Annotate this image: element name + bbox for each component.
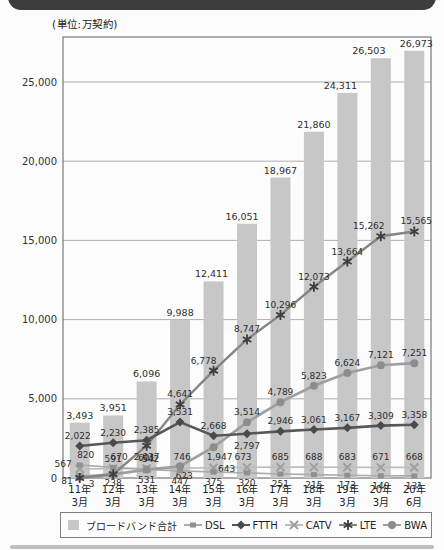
legend-item-catv: CATV <box>285 519 332 531</box>
value-label: 5,823 <box>301 371 327 381</box>
value-label: 3,167 <box>334 413 360 423</box>
value-label: 3,951 <box>100 402 127 413</box>
value-label: 3月 <box>272 497 288 508</box>
value-label: 3月 <box>205 497 221 508</box>
square-marker-icon <box>378 473 384 478</box>
gridlines: 05,00010,00015,00020,00025,000 <box>22 77 431 484</box>
legend-item-bwa: BWA <box>383 519 427 531</box>
legend-label: DSL <box>205 520 225 531</box>
value-label: 26,503 <box>352 45 385 56</box>
circle-marker-icon <box>410 359 418 367</box>
value-label: 15,000 <box>22 235 57 246</box>
value-label: 3月 <box>306 497 322 508</box>
value-label: 4,789 <box>268 387 294 397</box>
value-label: 12,073 <box>298 272 330 282</box>
square-marker-icon <box>344 473 350 478</box>
value-label: 15,262 <box>353 221 385 231</box>
value-label: 3,358 <box>401 410 427 420</box>
value-label: 3月 <box>105 497 121 508</box>
marker-icon <box>339 519 357 531</box>
value-label: 10,296 <box>265 300 297 310</box>
square-marker-icon <box>190 523 196 528</box>
legend-item-ftth: FTTH <box>232 519 278 531</box>
value-label: 3,531 <box>167 407 193 417</box>
marker-icon <box>184 519 202 531</box>
value-label: 10,000 <box>22 314 57 325</box>
value-label: 2,797 <box>234 441 260 451</box>
value-label: 2,022 <box>65 431 91 441</box>
bar-icon <box>65 519 83 531</box>
circle-marker-icon <box>388 521 396 529</box>
legend-item-lte: LTE <box>339 519 377 531</box>
bottom-divider <box>10 545 434 549</box>
value-label: 12,411 <box>195 268 228 279</box>
value-label: 20年 <box>369 483 392 495</box>
legend-label: BWA <box>404 520 427 531</box>
value-label: 15年 <box>202 483 225 495</box>
value-label: 8,747 <box>234 324 260 334</box>
value-label: 3月 <box>172 497 188 508</box>
value-label: 683 <box>339 452 356 462</box>
value-label: 7,251 <box>401 348 427 358</box>
value-label: 20,000 <box>22 156 57 167</box>
legend-label: ブロードバンド合計 <box>86 518 177 533</box>
value-label: 9,988 <box>166 307 193 318</box>
value-label: 6,096 <box>133 368 160 379</box>
broadband-chart: 05,00010,00015,00020,00025,0005675916016… <box>0 0 444 550</box>
marker-icon <box>285 519 303 531</box>
square-marker-icon <box>77 463 83 468</box>
value-label: 668 <box>406 452 423 462</box>
x-axis-labels: 11年3月12年3月13年3月14年3月15年3月16年3月17年3月18年3月… <box>68 483 425 508</box>
value-label: 2,230 <box>100 428 126 438</box>
chart-canvas: 05,00010,00015,00020,00025,0005675916016… <box>0 0 444 550</box>
square-marker-icon <box>411 473 417 478</box>
value-label: 3,514 <box>234 407 260 417</box>
value-label: 21,860 <box>297 119 330 130</box>
value-label: 2,668 <box>201 421 227 431</box>
page: (単位:万契約) 05,00010,00015,00020,00025,0005… <box>0 0 444 550</box>
circle-marker-icon <box>143 466 151 474</box>
value-label: 20年 <box>403 483 426 495</box>
value-label: 3月 <box>138 497 154 508</box>
value-label: 13,664 <box>332 247 364 257</box>
chart-legend: ブロードバンド合計DSLFTTHCATVLTEBWA <box>60 512 432 538</box>
value-label: 673 <box>234 452 251 462</box>
legend-label: LTE <box>360 520 377 531</box>
circle-marker-icon <box>210 443 218 451</box>
value-label: 2,385 <box>134 425 160 435</box>
value-label: 11年 <box>68 483 91 495</box>
value-label: 567 <box>55 459 72 469</box>
value-label: 16,051 <box>225 211 258 222</box>
value-label: 16年 <box>236 483 259 495</box>
value-label: 24,311 <box>324 80 357 91</box>
square-marker-icon <box>311 472 317 477</box>
value-label: 17年 <box>269 483 292 495</box>
value-label: 820 <box>77 450 94 460</box>
circle-marker-icon <box>377 361 385 369</box>
value-label: 14年 <box>169 483 192 495</box>
value-label: 3,309 <box>368 411 394 421</box>
value-label: 671 <box>372 452 389 462</box>
value-label: 6月 <box>406 497 422 508</box>
legend-label: CATV <box>306 520 332 531</box>
legend-label: FTTH <box>253 520 278 531</box>
value-label: 2,946 <box>268 416 294 426</box>
value-label: 685 <box>272 452 289 462</box>
value-label: 18,967 <box>264 165 297 176</box>
value-label: 688 <box>305 452 322 462</box>
value-label: 3月 <box>339 497 355 508</box>
square-marker-icon <box>244 470 250 475</box>
value-label: 3,493 <box>66 410 93 421</box>
circle-marker-icon <box>276 398 284 406</box>
value-label: 0 <box>51 473 57 484</box>
value-label: 1,947 <box>207 452 233 462</box>
square-marker-icon <box>277 472 283 477</box>
value-label: 6,778 <box>191 356 217 366</box>
value-label: 26,973 <box>400 38 433 49</box>
value-label: 3月 <box>239 497 255 508</box>
value-label: 19年 <box>336 483 359 495</box>
legend-item-dsl: DSL <box>184 519 225 531</box>
value-label: 15,565 <box>401 216 433 226</box>
circle-marker-icon <box>310 382 318 390</box>
value-label: 18年 <box>303 483 326 495</box>
